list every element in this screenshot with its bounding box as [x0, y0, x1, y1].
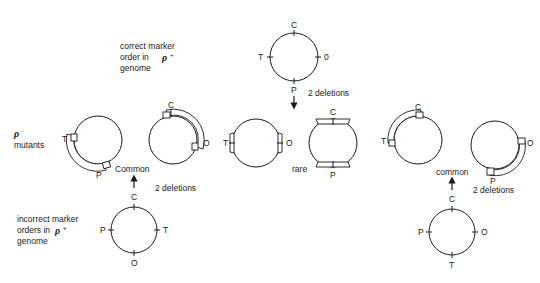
incorrect-order-line-3: genome — [17, 236, 48, 246]
mutant-mid-b: C P — [309, 107, 357, 180]
genome-ring — [270, 33, 318, 81]
marker-label: C — [131, 192, 137, 202]
incorrect-order-line-1: incorrect marker — [17, 214, 79, 224]
marker-box — [389, 140, 395, 146]
marker-label: P — [96, 170, 102, 180]
mutant-right-a: C T — [381, 102, 442, 164]
genome-ring — [232, 119, 280, 167]
marker-box — [163, 112, 170, 118]
marker-label: P — [330, 170, 336, 180]
genome-incorrect-left: C T O P — [100, 192, 168, 268]
genome-correct: C 0 P T — [258, 20, 329, 95]
deletion-band — [489, 141, 525, 176]
marker-label: P — [418, 227, 424, 237]
rare-label: rare — [292, 164, 307, 174]
mutant-left-b: C O — [149, 100, 210, 164]
marker-label: T — [163, 225, 168, 235]
genome-ring — [471, 121, 519, 169]
marker-label: C — [330, 107, 336, 117]
incorrect-order-line-2: orders in — [17, 225, 50, 235]
genome-ring — [309, 119, 357, 167]
marker-label: T — [381, 136, 386, 146]
incorrect-order-label: incorrect marker orders in ρ + genome — [17, 214, 79, 246]
marker-label: O — [131, 258, 138, 268]
marker-label: O — [481, 227, 488, 237]
marker-label: P — [100, 225, 106, 235]
marker-box — [192, 143, 198, 150]
genome-ring — [394, 116, 442, 164]
marker-label: C — [291, 20, 297, 30]
marker-label: O — [527, 138, 534, 148]
genome-ring — [429, 209, 475, 255]
marker-label: O — [203, 138, 210, 148]
right-common-label: common — [436, 167, 469, 177]
mutant-right-b: O P — [471, 121, 534, 186]
top-deletions-label: 2 deletions — [308, 88, 349, 98]
correct-order-line-2: order in — [120, 52, 149, 62]
rho-symbol: ρ — [54, 225, 60, 236]
correct-order-line-1: correct marker — [120, 41, 175, 51]
rho-superscript: - — [21, 128, 23, 134]
marker-box — [487, 168, 494, 175]
marker-label: 0 — [324, 52, 329, 62]
left-deletions-label: 2 deletions — [155, 183, 196, 193]
marker-label: T — [449, 260, 454, 270]
marker-box — [102, 161, 110, 169]
mutants-label: mutants — [14, 140, 44, 150]
marker-label: O — [286, 138, 293, 148]
marker-label: P — [291, 85, 297, 95]
right-deletions-label: 2 deletions — [473, 185, 514, 195]
rho-superscript: + — [63, 225, 67, 231]
genome-incorrect-right: C O T P — [418, 194, 488, 270]
correct-order-label: correct marker order in ρ + genome — [120, 41, 175, 73]
rho-symbol: ρ — [13, 128, 19, 139]
mutant-mid-a: T O — [223, 119, 293, 167]
deletion-band — [166, 109, 204, 149]
left-common-label: Common — [115, 164, 150, 174]
marker-label: C — [449, 194, 455, 204]
marker-label: T — [223, 138, 228, 148]
correct-order-line-3: genome — [120, 63, 151, 73]
marker-box — [416, 112, 423, 118]
genome-ring — [111, 207, 157, 253]
rho-superscript: + — [170, 52, 174, 58]
marker-box — [518, 138, 525, 144]
marker-box — [71, 134, 77, 141]
mutant-left-a: T P — [62, 116, 122, 180]
marker-label: T — [62, 134, 67, 144]
marker-label: C — [168, 100, 174, 110]
rho-symbol: ρ — [161, 52, 167, 63]
marker-label: C — [415, 102, 421, 112]
genome-ring — [149, 116, 197, 164]
diagram-canvas: correct marker order in ρ + genome C 0 P… — [0, 0, 540, 283]
marker-label: T — [258, 52, 263, 62]
